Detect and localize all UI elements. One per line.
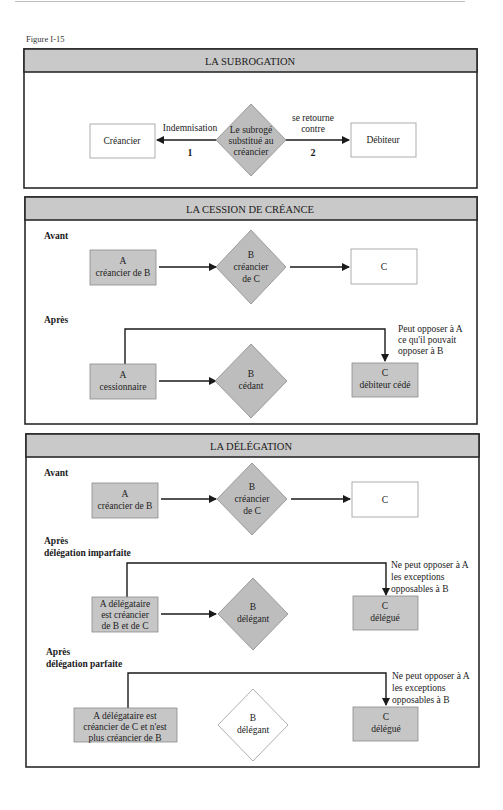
note-line-1: Ne peut opposer à A [392, 671, 470, 681]
apres-label: Après [44, 315, 69, 325]
diagram-canvas: LA SUBROGATION Créancier Le subrogé subs… [0, 0, 503, 810]
avant-label: Avant [44, 468, 69, 478]
note-line-1: Ne peut opposer à A [391, 560, 469, 570]
c-box-line-2: délégué [371, 724, 401, 734]
c-box-line-2: délégué [370, 613, 400, 623]
panel-title: LA DÉLÉGATION [210, 441, 292, 452]
a-box-line-1: A délégataire [100, 599, 150, 609]
a-box-line-3: plus créancier de B [88, 733, 161, 743]
b-diamond-line-1: B [250, 602, 256, 612]
b-diamond-line-2: délégant [237, 725, 270, 735]
b-diamond-line-1: B [250, 713, 256, 723]
panel-subrogation: LA SUBROGATION Créancier Le subrogé subs… [24, 49, 477, 188]
b-diamond-line-2: créancier [234, 262, 270, 272]
subroge-line-2: substitué au [228, 136, 273, 146]
note-line-3: opposables à B [392, 695, 450, 705]
b-diamond-line-2: cédant [239, 381, 264, 391]
a-box-line-1: A [120, 256, 127, 266]
c-box-line-1: C [383, 712, 389, 722]
a-box-line-1: A [120, 370, 127, 380]
c-box-label: C [381, 262, 387, 272]
a-box-line-2: créancier de C et n'est [83, 722, 167, 732]
b-diamond-line-1: B [248, 369, 254, 379]
subroge-line-3: créancier [234, 147, 270, 157]
panel-title: LA SUBROGATION [205, 56, 296, 67]
a-box-line-2: cessionnaire [100, 382, 147, 392]
b-diamond-line-2: créancier [235, 494, 271, 504]
se-retourne-line-2: contre [301, 124, 325, 134]
indemnisation-label: Indemnisation [163, 123, 218, 133]
panel-title: LA CESSION DE CRÉANCE [186, 204, 314, 215]
creancier-label: Créancier [104, 136, 142, 146]
debiteur-label: Débiteur [366, 135, 400, 145]
avant-label: Avant [44, 231, 69, 241]
a-box-line-1: A délégataire est [93, 711, 157, 721]
apres-label: Après [44, 536, 69, 546]
se-retourne-line-1: se retourne [292, 113, 334, 123]
apres-label: Après [46, 647, 71, 657]
note-line-3: opposables à B [391, 584, 449, 594]
note-line-2: les exceptions [392, 683, 446, 693]
b-diamond-line-1: B [249, 482, 255, 492]
b-diamond-line-1: B [248, 250, 254, 260]
note-line-2: les exceptions [391, 572, 445, 582]
b-diamond-line-3: de C [243, 506, 261, 516]
note-line-1: Peut opposer à A [398, 324, 463, 334]
a-box-line-3: de B et de C [102, 621, 149, 631]
a-box-line-2: créancier de B [98, 501, 153, 511]
note-line-3: opposer à B [398, 346, 443, 356]
panel-delegation: LA DÉLÉGATION Avant A créancier de B B c… [26, 434, 479, 767]
b-diamond-line-2: délégant [237, 614, 270, 624]
b-diamond-line-3: de C [242, 274, 260, 284]
subroge-line-1: Le subrogé [230, 125, 272, 135]
step-1-label: 1 [188, 147, 193, 158]
c-box-line-2: débiteur cédé [360, 380, 411, 390]
note-line-2: ce qu'il pouvait [398, 335, 457, 345]
perfect-label: délégation parfaite [46, 659, 122, 669]
c-box-line-1: C [382, 368, 388, 378]
imperfect-label: délégation imparfaite [44, 548, 131, 558]
step-2-label: 2 [311, 147, 316, 158]
a-box-line-2: créancier de B [96, 268, 151, 278]
panel-cession: LA CESSION DE CRÉANCE Avant A créancier … [25, 197, 477, 424]
c-box-line-1: C [382, 601, 388, 611]
a-box-line-1: A [122, 489, 129, 499]
a-box-line-2: est créancier [101, 610, 150, 620]
c-box-label: C [382, 495, 388, 505]
